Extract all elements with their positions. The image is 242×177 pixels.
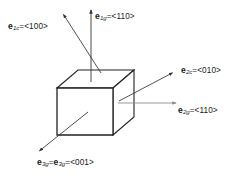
arrow-e1c — [64, 15, 102, 74]
vector-direction-e2g: <110> — [195, 106, 218, 115]
vector-label-e2g: e2g=<110> — [178, 106, 218, 115]
cube-shape — [57, 70, 134, 135]
vector-label-e2c: e2c=<010> — [181, 66, 221, 75]
cube-front-face — [57, 88, 113, 135]
vector-subscript-e2g: 2g — [183, 108, 190, 115]
vector-diagram-figure: e1c=<100> e1g=<110> e2c=<010> e2g=<110> … — [0, 0, 242, 177]
vector-label-e1g: e1g=<110> — [95, 12, 135, 21]
vector-direction-e3g: <001> — [70, 158, 94, 167]
vector-subscript-e1g: 1g — [100, 14, 107, 21]
vector-direction-e1c: <100> — [24, 22, 48, 31]
vector-subscript-e3g-first: 3g — [42, 160, 49, 167]
vector-label-e3g: e3g=e3g=<001> — [37, 158, 94, 167]
vector-label-e1c: e1c=<100> — [8, 22, 48, 31]
vector-direction-e1g: <110> — [112, 12, 135, 21]
vector-direction-e2c: <010> — [197, 66, 221, 75]
